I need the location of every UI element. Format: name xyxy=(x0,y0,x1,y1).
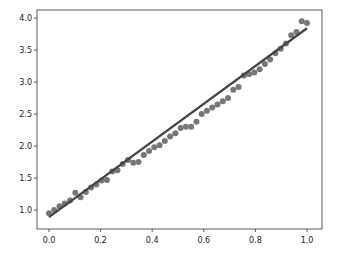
data-point xyxy=(178,125,184,131)
data-point xyxy=(183,124,189,130)
data-point xyxy=(204,108,210,114)
data-point xyxy=(220,98,226,104)
x-tick-label: 0.0 xyxy=(43,236,56,245)
data-point xyxy=(199,111,205,117)
data-point xyxy=(130,160,136,166)
data-point xyxy=(214,101,220,107)
data-point xyxy=(162,138,168,144)
data-point xyxy=(251,69,257,75)
data-point xyxy=(299,18,305,24)
y-tick-label: 2.0 xyxy=(19,142,32,151)
data-point xyxy=(304,20,310,26)
scatter-chart: 0.00.20.40.60.81.0 1.01.52.02.53.03.54.0 xyxy=(0,0,339,254)
y-tick-label: 1.5 xyxy=(19,174,32,183)
data-point xyxy=(236,84,242,90)
x-tick-label: 0.4 xyxy=(146,236,159,245)
data-point xyxy=(188,124,194,130)
data-point xyxy=(230,87,236,93)
data-point xyxy=(257,66,263,72)
data-point xyxy=(151,144,157,150)
x-tick-label: 1.0 xyxy=(301,236,314,245)
y-axis-ticks: 1.01.52.02.53.03.54.0 xyxy=(19,14,37,215)
data-point xyxy=(172,130,178,136)
data-point xyxy=(157,142,163,148)
data-point xyxy=(72,190,78,196)
data-point xyxy=(225,95,231,101)
data-point xyxy=(167,133,173,139)
regression-line xyxy=(49,28,307,217)
x-tick-label: 0.6 xyxy=(197,236,210,245)
y-tick-label: 4.0 xyxy=(19,14,32,23)
fit-line xyxy=(49,28,307,217)
data-point xyxy=(146,148,152,154)
data-points xyxy=(46,18,310,216)
x-tick-label: 0.2 xyxy=(94,236,107,245)
data-point xyxy=(141,152,147,158)
data-point xyxy=(104,177,110,183)
data-point xyxy=(262,61,268,67)
x-tick-label: 0.8 xyxy=(249,236,262,245)
x-axis-ticks: 0.00.20.40.60.81.0 xyxy=(43,229,314,245)
y-tick-label: 2.5 xyxy=(19,110,32,119)
y-tick-label: 3.5 xyxy=(19,46,32,55)
data-point xyxy=(209,105,215,111)
y-tick-label: 3.0 xyxy=(19,78,32,87)
data-point xyxy=(193,119,199,125)
y-tick-label: 1.0 xyxy=(19,206,32,215)
data-point xyxy=(136,159,142,165)
